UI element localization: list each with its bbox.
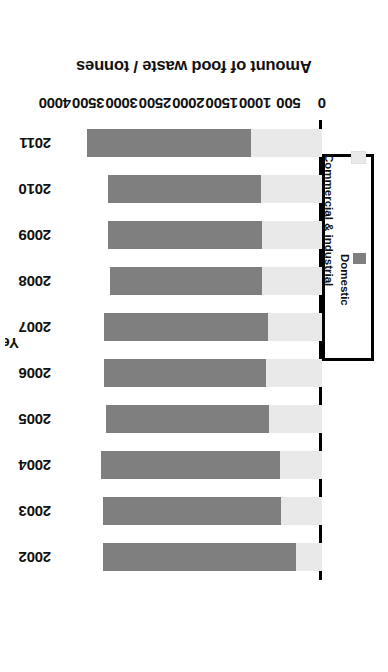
chart-legend: DomesticCommercial & industrial: [322, 154, 374, 361]
bar-segment-commercial-industrial: [266, 359, 322, 387]
category-axis-tick-label: 2005: [5, 411, 51, 428]
bar-segment-domestic: [103, 543, 296, 571]
bar-segment-domestic: [103, 497, 281, 525]
bar-segment-domestic: [87, 129, 251, 157]
bar-segment-domestic: [106, 405, 269, 433]
category-axis-tick-label: 2009: [5, 227, 51, 244]
bar-row: [108, 221, 322, 249]
bar-segment-commercial-industrial: [280, 451, 322, 479]
category-axis-title: Year: [5, 324, 19, 352]
legend-items: DomesticCommercial & industrial: [325, 157, 371, 358]
plot-area: [55, 120, 322, 580]
category-axis-tick-label: 2004: [5, 457, 51, 474]
bar-row: [106, 405, 322, 433]
value-axis-title: Amount of food waste / tonnes: [0, 57, 388, 76]
category-axis-tick-label: 2011: [5, 135, 51, 152]
bar-segment-commercial-industrial: [251, 129, 322, 157]
bar-segment-domestic: [108, 221, 262, 249]
legend-swatch: [351, 151, 366, 164]
bar-row: [103, 497, 322, 525]
legend-item: Commercial & industrial: [323, 150, 367, 250]
bar-row: [108, 175, 322, 203]
bar-row: [101, 451, 322, 479]
value-axis-tick-label: 3000: [106, 95, 138, 112]
bar-row: [104, 313, 322, 341]
bar-segment-domestic: [104, 359, 266, 387]
bar-segment-domestic: [101, 451, 280, 479]
bar-row: [110, 267, 322, 295]
category-axis-tick-label: 2003: [5, 503, 51, 520]
bar-segment-domestic: [110, 267, 262, 295]
category-axis-tick-label: 2008: [5, 273, 51, 290]
value-axis-ticks: 05001000150020002500300035004000: [55, 88, 322, 112]
chart-figure: 05001000150020002500300035004000 Amount …: [0, 0, 388, 672]
value-axis-tick-label: 1000: [239, 95, 271, 112]
bar-segment-commercial-industrial: [281, 497, 322, 525]
value-axis-tick-label: 1500: [206, 95, 238, 112]
bar-segment-commercial-industrial: [262, 221, 322, 249]
bar-segment-commercial-industrial: [268, 313, 322, 341]
bar-segment-commercial-industrial: [261, 175, 322, 203]
bar-segment-commercial-industrial: [262, 267, 322, 295]
category-axis-tick-label: 2006: [5, 365, 51, 382]
value-axis-tick-label: 2000: [172, 95, 204, 112]
legend-label: Domestic: [339, 254, 351, 306]
category-axis-tick-label: 2010: [5, 181, 51, 198]
value-axis-tick-label: 500: [277, 95, 301, 112]
legend-label: Commercial & industrial: [323, 154, 335, 286]
value-axis-tick-label: 3500: [72, 95, 104, 112]
rotated-figure-wrapper: 05001000150020002500300035004000 Amount …: [0, 0, 388, 672]
value-axis-tick-label: 0: [318, 95, 326, 112]
bar-segment-commercial-industrial: [269, 405, 322, 433]
value-axis-tick-label: 2500: [139, 95, 171, 112]
category-axis-tick-label: 2002: [5, 549, 51, 566]
bar-segment-commercial-industrial: [296, 543, 322, 571]
bar-segment-domestic: [108, 175, 261, 203]
bar-segment-domestic: [104, 313, 268, 341]
bar-row: [104, 359, 322, 387]
value-axis-tick-label: 4000: [39, 95, 71, 112]
legend-swatch: [353, 253, 366, 264]
bar-row: [87, 129, 322, 157]
bar-row: [103, 543, 322, 571]
